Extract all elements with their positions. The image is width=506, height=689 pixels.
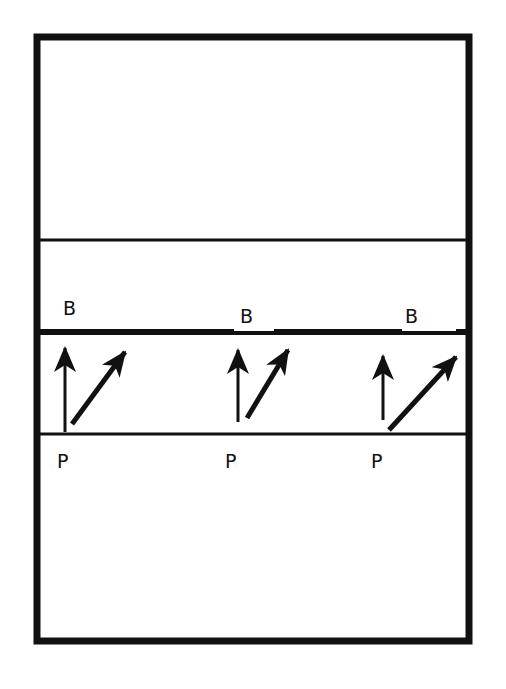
label-p-1: P [57,452,68,471]
label-p-3: P [371,452,382,471]
diagonal-arrow-3 [389,357,456,430]
label-b-2: B [240,307,253,326]
diagonal-arrow-1 [72,352,125,424]
label-b-1: B [63,299,76,318]
diagonal-arrow-2 [247,350,288,418]
diagram-canvas: B B B P P P [0,0,506,689]
label-p-2: P [225,452,236,471]
diagram-svg [0,0,506,689]
outer-frame [37,37,469,641]
label-b-3: B [405,307,418,326]
